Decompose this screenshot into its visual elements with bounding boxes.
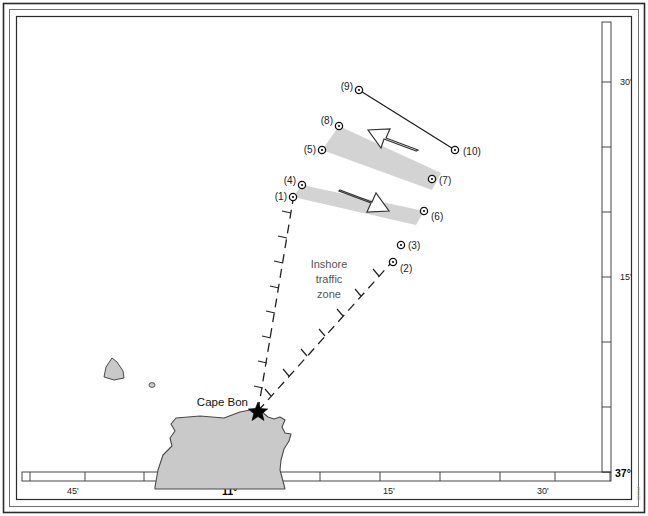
waypoint-label-9: (9) <box>341 81 353 92</box>
zembretta-islet <box>149 383 155 388</box>
y-tick-label-30: 30' <box>620 77 632 87</box>
inshore-zone-line-3: zone <box>317 288 341 300</box>
inshore-zone-line-1: Inshore <box>311 258 348 270</box>
waypoint-marker-8[interactable] <box>335 122 342 129</box>
waypoint-marker-4[interactable] <box>298 181 305 188</box>
waypoint-marker-3[interactable] <box>397 241 404 248</box>
waypoint-label-7: (7) <box>439 175 451 186</box>
waypoint-marker-10[interactable] <box>451 146 458 153</box>
corner-microtext: 020564 <box>636 486 641 500</box>
x-tick-label-30: 30' <box>537 486 549 496</box>
nautical-chart-figure: 45' 11° 15' 30' 30' 15' 37° <box>0 0 648 516</box>
x-tick-label-45: 45' <box>67 486 79 496</box>
waypoint-label-8: (8) <box>321 115 333 126</box>
waypoint-label-6: (6) <box>431 211 443 222</box>
waypoint-label-10: (10) <box>463 146 481 157</box>
cape-bon-label: Cape Bon <box>197 396 248 408</box>
waypoint-marker-6[interactable] <box>420 207 427 214</box>
y-tick-label-15: 15' <box>620 272 632 282</box>
waypoint-label-1: (1) <box>275 191 287 202</box>
chart-canvas: 45' 11° 15' 30' 30' 15' 37° <box>0 0 648 516</box>
cape-bon-peninsula <box>155 409 291 489</box>
waypoint-label-5: (5) <box>304 144 316 155</box>
waypoint-marker-9[interactable] <box>355 86 362 93</box>
waypoint-label-4: (4) <box>284 175 296 186</box>
x-tick-label-15: 15' <box>383 486 395 496</box>
waypoint-label-2: (2) <box>400 263 412 274</box>
inshore-zone-line-2: traffic <box>316 273 343 285</box>
waypoint-marker-5[interactable] <box>318 146 325 153</box>
y-tick-label-37deg: 37° <box>615 467 631 479</box>
waypoint-marker-7[interactable] <box>428 175 435 182</box>
waypoint-label-3: (3) <box>408 240 420 251</box>
corner-microtext-group: 020564 <box>636 486 641 500</box>
waypoint-marker-2[interactable] <box>389 258 396 265</box>
waypoint-marker-1[interactable] <box>289 193 296 200</box>
